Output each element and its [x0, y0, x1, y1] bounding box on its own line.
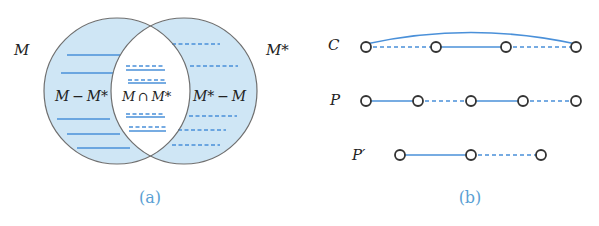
figure-canvas: M M* M − M* M ∩ M* M* − M (a) C P P′ (b) [0, 0, 599, 226]
region-label-intersection: M ∩ M* [121, 89, 172, 104]
caption-a: (a) [139, 188, 161, 207]
path-row-2 [395, 150, 546, 160]
vertex-node [395, 150, 405, 160]
closing-arc-edge [366, 33, 576, 45]
vertex-node [466, 150, 476, 160]
set-label-m: M [13, 41, 30, 59]
row-label-p: P [329, 91, 341, 109]
vertex-node [518, 96, 528, 106]
caption-b: (b) [459, 188, 482, 207]
vertex-node [571, 96, 581, 106]
vertex-node [536, 150, 546, 160]
region-label-m-minus-mstar: M − M* [54, 88, 108, 104]
venn-diagram-panel-a: M M* M − M* M ∩ M* M* − M (a) [13, 18, 289, 207]
path-row-0 [361, 33, 581, 53]
vertex-node [466, 96, 476, 106]
vertex-node [431, 42, 441, 52]
vertex-node [501, 42, 511, 52]
vertex-node [413, 96, 423, 106]
row-label-c: C [328, 36, 340, 54]
region-label-mstar-minus-m: M* − M [192, 88, 247, 104]
path-row-1 [361, 96, 581, 106]
paths-panel-b: C P P′ (b) [328, 33, 581, 208]
vertex-node [361, 96, 371, 106]
vertex-node [571, 42, 581, 52]
vertex-node [361, 42, 371, 52]
row-label-p-prime: P′ [351, 146, 366, 164]
set-label-m-star: M* [265, 41, 289, 59]
path-rows [361, 33, 581, 161]
